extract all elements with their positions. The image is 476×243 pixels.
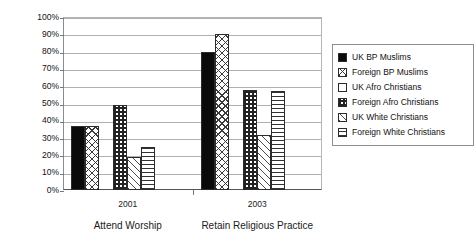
legend-item-label: UK BP Muslims xyxy=(352,53,411,62)
legend-item: UK Afro Christians xyxy=(338,80,468,95)
chart-figure: 0%10%20%30%40%50%60%70%80%90%100% 2001At… xyxy=(0,0,476,243)
legend-item: UK BP Muslims xyxy=(338,50,468,65)
y-axis-tick-label: 100% xyxy=(37,13,59,22)
x-axis-year-label: 2003 xyxy=(193,199,323,209)
y-axis-tick-label: 40% xyxy=(42,116,59,125)
y-axis-tick-label: 0% xyxy=(47,186,59,195)
y-axis-tick-label: 60% xyxy=(42,82,59,91)
legend-item-label: Foreign BP Muslims xyxy=(352,68,428,77)
legend-swatch-icon xyxy=(338,68,347,77)
bar xyxy=(141,147,155,190)
y-axis-tick-label: 70% xyxy=(42,64,59,73)
x-axis-category-caption: Retain Religious Practice xyxy=(173,220,343,231)
legend-item-label: Foreign White Christians xyxy=(352,128,445,137)
bar xyxy=(127,157,141,190)
y-axis-tick-label: 50% xyxy=(42,99,59,108)
y-axis-tick-label: 10% xyxy=(42,168,59,177)
y-axis-tick-label: 20% xyxy=(42,151,59,160)
legend-item: Foreign White Christians xyxy=(338,125,468,140)
legend-swatch-icon xyxy=(338,128,347,137)
category-separator xyxy=(193,190,194,195)
y-axis-tick-label: 30% xyxy=(42,134,59,143)
x-axis-year-label: 2001 xyxy=(63,199,193,209)
bar xyxy=(215,34,229,190)
legend-item: Foreign Afro Christians xyxy=(338,95,468,110)
legend-item: UK White Christians xyxy=(338,110,468,125)
legend-swatch-icon xyxy=(338,83,347,92)
bar xyxy=(71,126,85,190)
bar xyxy=(201,52,215,190)
legend-item: Foreign BP Muslims xyxy=(338,65,468,80)
y-axis-tick-label: 90% xyxy=(42,30,59,39)
chart-legend: UK BP MuslimsForeign BP MuslimsUK Afro C… xyxy=(332,44,474,146)
legend-item-label: Foreign Afro Christians xyxy=(352,98,438,107)
bar-series-container xyxy=(63,17,322,190)
legend-swatch-icon xyxy=(338,98,347,107)
legend-swatch-icon xyxy=(338,113,347,122)
bar xyxy=(243,90,257,190)
bar-group xyxy=(71,17,155,190)
bar xyxy=(257,135,271,190)
y-axis-tick xyxy=(60,191,64,192)
bar xyxy=(271,91,285,190)
bar xyxy=(113,105,127,190)
legend-item-label: UK Afro Christians xyxy=(352,83,421,92)
y-axis-labels: 0%10%20%30%40%50%60%70%80%90%100% xyxy=(0,0,59,207)
y-axis-tick-label: 80% xyxy=(42,47,59,56)
bar xyxy=(85,126,99,190)
legend-swatch-icon xyxy=(338,53,347,62)
bar-group xyxy=(201,17,285,190)
legend-item-label: UK White Christians xyxy=(352,113,428,122)
